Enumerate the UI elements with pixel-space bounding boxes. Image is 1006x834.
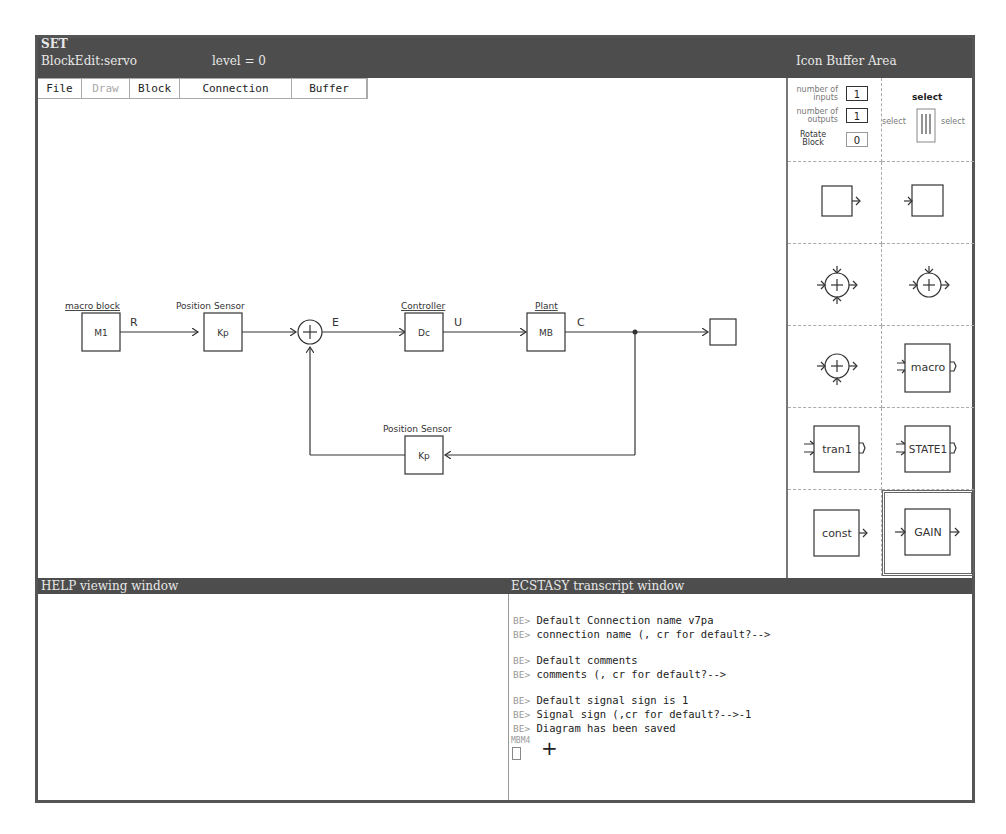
block-output[interactable]	[710, 319, 736, 345]
select-switch-icon[interactable]	[915, 108, 939, 144]
mouse-indicator-icon	[512, 747, 521, 760]
svg-text:GAIN: GAIN	[914, 526, 942, 539]
icon-state1[interactable]: STATE1	[882, 408, 974, 490]
icon-input-block[interactable]	[882, 162, 974, 244]
level-indicator: level = 0	[212, 54, 266, 68]
svg-text:tran1: tran1	[822, 443, 852, 456]
icon-tran1[interactable]: tran1	[788, 408, 882, 490]
signal-c: C	[577, 316, 585, 329]
svg-text:const: const	[822, 527, 852, 540]
diagram-canvas[interactable]: M1 macro block R Kp Position Sensor E Dc…	[38, 97, 786, 578]
inputs-count-field[interactable]: 1	[846, 86, 868, 101]
app-title: SET	[41, 37, 68, 51]
transcript-line: BE> Default Connection name v7pa	[513, 614, 714, 626]
svg-text:MB: MB	[539, 328, 553, 338]
transcript-line: BE> comments (, cr for default?-->	[513, 668, 726, 680]
menu-buffer[interactable]: Buffer	[292, 79, 367, 98]
transcript-line: BE> Default comments	[513, 654, 638, 666]
icon-const[interactable]: const	[788, 490, 882, 576]
svg-text:Kp: Kp	[217, 328, 229, 338]
svg-text:STATE1: STATE1	[909, 443, 947, 455]
transcript-line: BE> connection name (, cr for default?--…	[513, 628, 770, 640]
mouse-button-label: MBM4	[511, 736, 530, 745]
transcript-window[interactable]: BE> Default Connection name v7pa BE> con…	[508, 594, 972, 800]
icon-macro[interactable]: macro	[882, 326, 974, 408]
svg-text:Dc: Dc	[418, 328, 430, 338]
icon-sum-top-input[interactable]	[882, 244, 974, 326]
rotate-field[interactable]: 0	[846, 132, 868, 147]
block-dc-controller[interactable]: Dc Controller	[401, 301, 446, 351]
transcript-title: ECSTASY transcript window	[511, 579, 684, 593]
signal-u: U	[454, 316, 462, 329]
transcript-titlebar: ECSTASY transcript window	[508, 578, 972, 594]
select-right[interactable]: select	[941, 117, 965, 126]
svg-text:Position Sensor: Position Sensor	[176, 301, 245, 311]
help-titlebar: HELP viewing window	[38, 578, 508, 594]
select-left[interactable]: select	[882, 117, 906, 126]
block-mb-plant[interactable]: MB Plant	[527, 301, 565, 351]
menu-bar: File Draw Block Connection Buffer	[38, 78, 368, 99]
svg-text:Plant: Plant	[535, 301, 558, 311]
block-editor-titlebar: SET BlockEdit:servo level = 0	[38, 38, 786, 78]
menu-connection[interactable]: Connection	[180, 79, 292, 98]
signal-r: R	[130, 316, 138, 329]
block-m1[interactable]: M1 macro block	[65, 301, 121, 351]
svg-text:Controller: Controller	[401, 301, 446, 311]
svg-text:Position Sensor: Position Sensor	[383, 424, 452, 434]
summing-junction[interactable]	[298, 320, 322, 344]
icon-buffer-titlebar: Icon Buffer Area	[786, 38, 972, 78]
menu-file[interactable]: File	[38, 79, 82, 98]
menu-block[interactable]: Block	[130, 79, 180, 98]
menu-draw[interactable]: Draw	[82, 79, 130, 98]
block-kp-feedback[interactable]: Kp Position Sensor	[383, 424, 452, 474]
outputs-count-field[interactable]: 1	[846, 108, 868, 123]
crosshair-cursor-icon: +	[541, 738, 558, 758]
block-kp-forward[interactable]: Kp Position Sensor	[176, 301, 245, 351]
icon-sum-3-input[interactable]	[788, 244, 882, 326]
signal-e: E	[332, 316, 339, 329]
select-cell[interactable]: select select select	[882, 78, 974, 162]
transcript-line: BE> Diagram has been saved	[513, 722, 676, 734]
inputs-label: number ofinputs	[788, 86, 838, 102]
select-title: select	[912, 92, 942, 102]
icon-buffer-title: Icon Buffer Area	[796, 54, 897, 68]
help-viewing-window	[38, 594, 508, 800]
icon-buffer-panel: number ofinputs 1 number ofoutputs 1 Rot…	[786, 78, 972, 578]
svg-text:Kp: Kp	[418, 451, 430, 461]
block-diagram: M1 macro block R Kp Position Sensor E Dc…	[38, 97, 786, 578]
icon-sum-bottom-input[interactable]	[788, 326, 882, 408]
editor-title: BlockEdit:servo	[41, 54, 137, 68]
main-window: SET BlockEdit:servo level = 0 Icon Buffe…	[35, 35, 975, 803]
transcript-line: BE> Default signal sign is 1	[513, 694, 688, 706]
block-params-cell: number ofinputs 1 number ofoutputs 1 Rot…	[788, 78, 882, 162]
transcript-line: BE> Signal sign (,cr for default?-->-1	[513, 708, 751, 720]
svg-text:macro: macro	[911, 361, 946, 374]
icon-output-block[interactable]	[788, 162, 882, 244]
svg-text:M1: M1	[94, 328, 108, 338]
rotate-label: RotateBlock	[788, 131, 838, 147]
outputs-label: number ofoutputs	[788, 108, 838, 124]
icon-gain-selected[interactable]: GAIN	[882, 490, 974, 576]
help-title: HELP viewing window	[41, 579, 178, 593]
svg-text:macro block: macro block	[65, 301, 121, 311]
